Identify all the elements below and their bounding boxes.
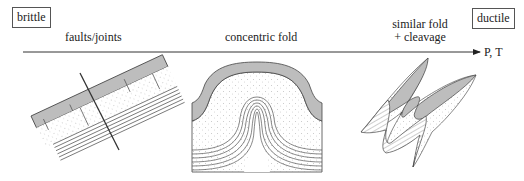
similar-fold-title-line2: + cleavage bbox=[388, 31, 452, 44]
faults-joints-figure bbox=[31, 55, 185, 164]
concentric-fold-title: concentric fold bbox=[225, 31, 297, 44]
concentric-fold-figure bbox=[192, 62, 322, 172]
brittle-label-box: brittle bbox=[12, 7, 51, 28]
similar-fold-title: similar fold + cleavage bbox=[388, 18, 452, 44]
pt-axis-label: P, T bbox=[484, 46, 502, 59]
similar-fold-figure bbox=[361, 58, 476, 167]
faults-joints-title: faults/joints bbox=[65, 31, 122, 44]
ductile-label: ductile bbox=[477, 11, 510, 25]
ductile-label-box: ductile bbox=[472, 8, 515, 29]
brittle-label: brittle bbox=[17, 10, 46, 24]
